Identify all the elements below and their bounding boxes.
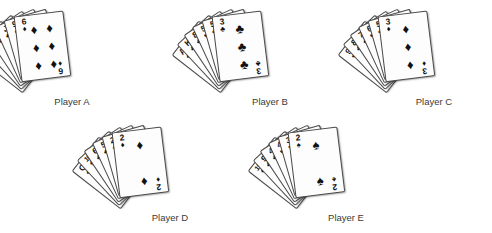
card-pip: ♦ bbox=[45, 20, 53, 34]
card-pip: ♦ bbox=[140, 173, 148, 187]
card-suit-spade-icon: ♠ bbox=[327, 176, 341, 185]
card-suit-diamond-icon: ♦ bbox=[417, 60, 431, 69]
player-label: Player D bbox=[110, 212, 230, 223]
card-pip: ♦ bbox=[32, 40, 40, 54]
card-pip: ♦ bbox=[136, 137, 144, 151]
card-suit-diamond-icon: ♦ bbox=[151, 176, 165, 185]
card-corner-index-bottom: 6♦ bbox=[53, 60, 68, 76]
playing-card-face-up[interactable]: 3♦♦♦♦3♦ bbox=[378, 11, 436, 83]
playing-card-face-up[interactable]: 6♦♦♦♦♦♦♦6♦ bbox=[14, 11, 72, 83]
card-pip: ♣ bbox=[237, 39, 247, 53]
card-pip: ♠ bbox=[316, 173, 324, 187]
card-suit-club-icon: ♣ bbox=[251, 60, 265, 69]
card-pip: ♣ bbox=[235, 21, 245, 35]
player-label: Player E bbox=[286, 212, 406, 223]
playing-card-face-up[interactable]: 3♣♣♣♣3♣ bbox=[212, 11, 270, 83]
player-label: Player A bbox=[12, 96, 132, 107]
card-corner-index-bottom: 2♠ bbox=[327, 176, 342, 192]
playing-card-face-up[interactable]: 2♠♠.♠2♠ bbox=[288, 127, 346, 199]
card-pip: ♦ bbox=[34, 58, 42, 72]
card-corner-index-bottom: 3♣ bbox=[251, 60, 266, 76]
card-hands-figure: A♠A♣Q♦J♣9♠6♦♦♦♦♦♦♦6♦Player AA♠K♣8♣5♥5♣3♣… bbox=[0, 0, 492, 233]
player-label: Player B bbox=[210, 96, 330, 107]
card-suit-diamond-icon: ♦ bbox=[53, 60, 67, 69]
playing-card-face-up[interactable]: 2♦♦.♦2♦ bbox=[112, 127, 170, 199]
card-pip: ♦ bbox=[30, 22, 38, 36]
card-pip: ♣ bbox=[239, 57, 249, 71]
card-pip: ♦ bbox=[406, 57, 414, 71]
player-label: Player C bbox=[374, 96, 492, 107]
card-pip: ♦ bbox=[404, 39, 412, 53]
card-pip: ♦ bbox=[402, 21, 410, 35]
card-corner-index-bottom: 3♦ bbox=[417, 60, 432, 76]
card-corner-index-bottom: 2♦ bbox=[151, 176, 166, 192]
card-pip: ♠ bbox=[311, 137, 319, 151]
card-pip: ♦ bbox=[48, 38, 56, 52]
